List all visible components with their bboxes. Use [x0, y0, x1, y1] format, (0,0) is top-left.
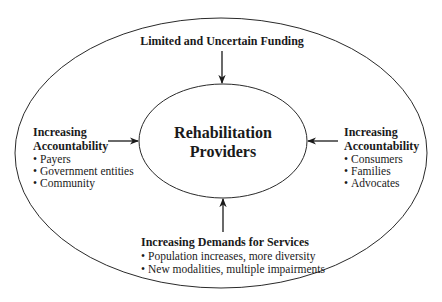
- bottom-item: Population increases, more diversity: [148, 250, 316, 263]
- center-label-line1: Rehabilitation: [174, 124, 272, 141]
- right-factor-title-line2: Accountability: [344, 139, 419, 153]
- svg-text:•Families: •Families: [344, 165, 391, 177]
- right-factor-list: •Consumers •Families •Advocates: [344, 153, 403, 189]
- svg-text:•New modalities, multiple impa: •New modalities, multiple impairments: [141, 263, 325, 276]
- right-item: Consumers: [351, 153, 403, 165]
- svg-text:•Advocates: •Advocates: [344, 177, 400, 189]
- right-item: Advocates: [351, 177, 400, 189]
- bottom-factor-title: Increasing Demands for Services: [141, 235, 309, 249]
- svg-text:•Population increases, more di: •Population increases, more diversity: [141, 250, 316, 263]
- diagram-canvas: Rehabilitation Providers Limited and Unc…: [0, 0, 442, 302]
- left-factor-list: •Payers •Government entities •Community: [33, 153, 134, 190]
- top-factor-title: Limited and Uncertain Funding: [140, 34, 304, 48]
- bullet: •: [141, 263, 145, 275]
- bullet: •: [33, 165, 37, 177]
- left-factor-title-line1: Increasing: [33, 125, 87, 139]
- bottom-item: New modalities, multiple impairments: [148, 263, 325, 276]
- right-item: Families: [351, 165, 391, 177]
- right-factor-title-line1: Increasing: [344, 125, 398, 139]
- bullet: •: [344, 153, 348, 165]
- svg-text:•Community: •Community: [33, 177, 95, 190]
- svg-text:•Consumers: •Consumers: [344, 153, 403, 165]
- rehabilitation-providers-ellipse: [139, 84, 307, 198]
- bottom-factor-list: •Population increases, more diversity •N…: [141, 250, 325, 276]
- bullet: •: [33, 177, 37, 189]
- left-item: Community: [40, 177, 95, 190]
- left-factor-title-line2: Accountability: [33, 139, 108, 153]
- bullet: •: [141, 250, 145, 262]
- bullet: •: [33, 153, 37, 165]
- center-label-line2: Providers: [190, 143, 256, 160]
- bullet: •: [344, 177, 348, 189]
- svg-text:•Government entities: •Government entities: [33, 165, 134, 177]
- bullet: •: [344, 165, 348, 177]
- left-item: Government entities: [40, 165, 134, 177]
